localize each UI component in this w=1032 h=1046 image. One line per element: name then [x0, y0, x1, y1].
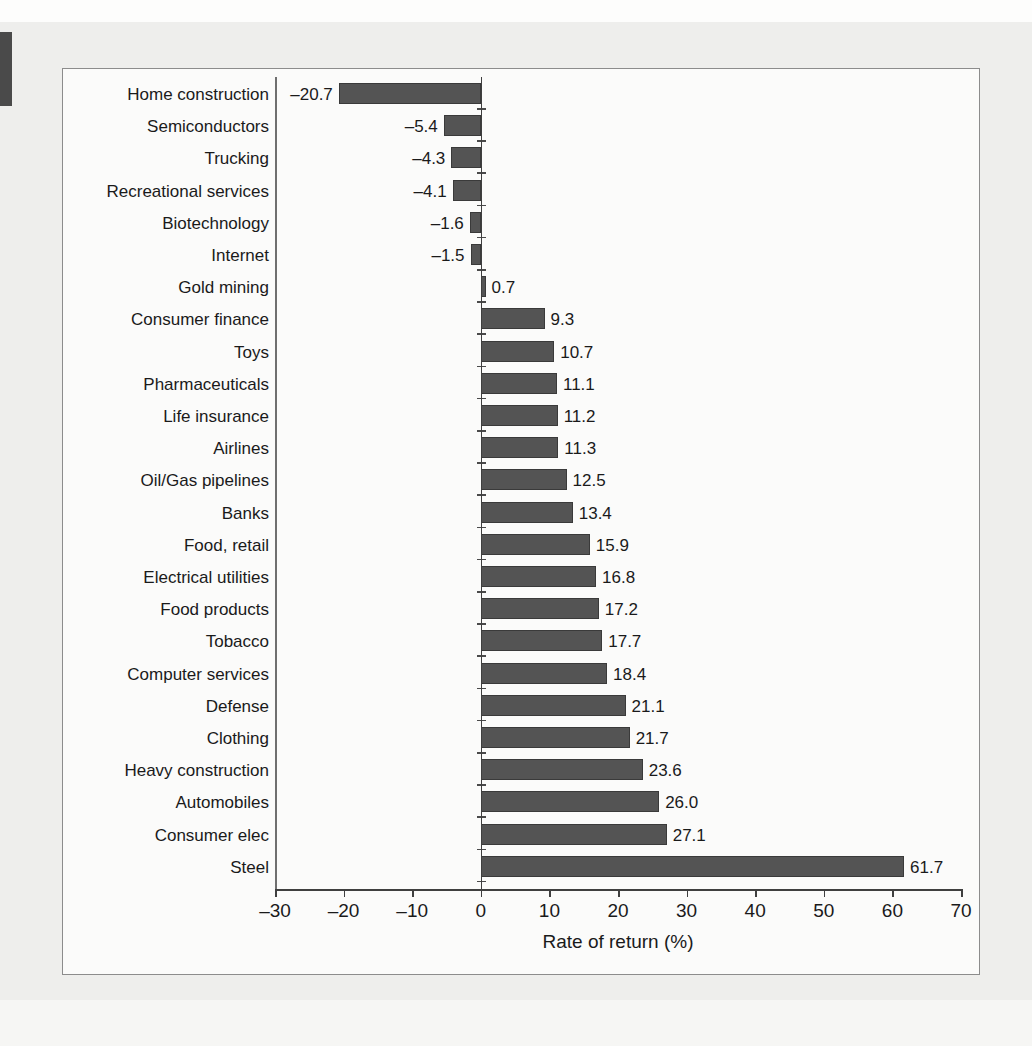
bar — [481, 308, 545, 329]
category-label: Clothing — [63, 730, 269, 747]
x-tick-label: 70 — [931, 901, 991, 920]
bar-value-label: –20.7 — [290, 86, 333, 103]
bar — [481, 791, 659, 812]
bar-value-label: 23.6 — [649, 762, 682, 779]
bar-value-label: 11.2 — [564, 408, 596, 425]
x-tick-label: –20 — [314, 901, 374, 920]
bar-value-label: 21.1 — [632, 698, 665, 715]
bar — [451, 147, 480, 168]
bar-value-label: –4.1 — [414, 183, 447, 200]
bar — [481, 663, 607, 684]
bar-value-label: –4.3 — [412, 150, 445, 167]
x-tick-label: 0 — [451, 901, 511, 920]
category-label: Pharmaceuticals — [63, 376, 269, 393]
category-label: Airlines — [63, 440, 269, 457]
x-tick-label: 50 — [794, 901, 854, 920]
x-tick — [549, 889, 551, 897]
category-label: Heavy construction — [63, 762, 269, 779]
bar — [453, 180, 481, 201]
category-label: Recreational services — [63, 183, 269, 200]
bar — [470, 212, 481, 233]
bar-value-label: 17.7 — [608, 633, 641, 650]
bar-value-label: 11.1 — [563, 376, 595, 393]
category-label: Consumer finance — [63, 311, 269, 328]
category-label: Life insurance — [63, 408, 269, 425]
bar — [481, 727, 630, 748]
x-tick — [892, 889, 894, 897]
bar — [481, 341, 554, 362]
bar — [481, 598, 599, 619]
category-label: Gold mining — [63, 279, 269, 296]
category-label: Food, retail — [63, 537, 269, 554]
x-tick-label: 40 — [725, 901, 785, 920]
bar-value-label: –1.5 — [431, 247, 464, 264]
category-label: Computer services — [63, 666, 269, 683]
bar — [481, 759, 643, 780]
bar-value-label: 13.4 — [579, 505, 612, 522]
category-label: Steel — [63, 859, 269, 876]
bar — [481, 469, 567, 490]
category-label: Semiconductors — [63, 118, 269, 135]
bar-value-label: 61.7 — [910, 859, 943, 876]
x-tick-label: 60 — [862, 901, 922, 920]
category-label: Food products — [63, 601, 269, 618]
category-label: Home construction — [63, 86, 269, 103]
category-label-column: Home constructionSemiconductorsTruckingR… — [63, 69, 269, 889]
figure-frame: Home constructionSemiconductorsTruckingR… — [62, 68, 980, 975]
x-tick — [618, 889, 620, 897]
bar — [481, 437, 559, 458]
bars-area: –20.7–5.4–4.3–4.1–1.6–1.50.79.310.711.11… — [275, 69, 981, 889]
bar-value-label: 9.3 — [551, 311, 575, 328]
bar — [471, 244, 481, 265]
category-label: Electrical utilities — [63, 569, 269, 586]
x-tick-label: 20 — [588, 901, 648, 920]
bar-value-label: 26.0 — [665, 794, 698, 811]
category-label: Biotechnology — [63, 215, 269, 232]
x-tick — [481, 889, 483, 897]
bar — [481, 373, 557, 394]
bar-value-label: 11.3 — [564, 440, 596, 457]
category-label: Banks — [63, 505, 269, 522]
x-tick-label: –10 — [382, 901, 442, 920]
bar-value-label: 15.9 — [596, 537, 629, 554]
bar — [481, 824, 667, 845]
x-tick — [961, 889, 963, 897]
x-tick — [687, 889, 689, 897]
x-tick — [412, 889, 414, 897]
x-tick-label: 30 — [657, 901, 717, 920]
x-tick — [344, 889, 346, 897]
x-tick — [824, 889, 826, 897]
bar-value-label: 21.7 — [636, 730, 669, 747]
category-label: Tobacco — [63, 633, 269, 650]
zero-baseline — [481, 77, 483, 889]
category-label: Toys — [63, 344, 269, 361]
category-label: Automobiles — [63, 794, 269, 811]
page-edge-marker — [0, 32, 12, 106]
bar — [481, 405, 558, 426]
bar-value-label: 27.1 — [673, 827, 706, 844]
bar-chart-plot: Home constructionSemiconductorsTruckingR… — [63, 69, 981, 976]
bar-value-label: 16.8 — [602, 569, 635, 586]
bar-value-label: 12.5 — [573, 472, 606, 489]
x-axis-title: Rate of return (%) — [275, 931, 961, 953]
x-tick — [755, 889, 757, 897]
bar-value-label: –5.4 — [405, 118, 438, 135]
bar-value-label: 18.4 — [613, 666, 646, 683]
bar — [481, 534, 590, 555]
bar — [444, 115, 481, 136]
category-label: Consumer elec — [63, 827, 269, 844]
category-label: Oil/Gas pipelines — [63, 472, 269, 489]
bar-value-label: 10.7 — [560, 344, 593, 361]
bar — [481, 695, 626, 716]
x-tick — [275, 889, 277, 897]
bar-value-label: 0.7 — [492, 279, 516, 296]
bar — [481, 856, 904, 877]
bar — [481, 566, 596, 587]
category-label: Defense — [63, 698, 269, 715]
bar — [339, 83, 481, 104]
bar-value-label: 17.2 — [605, 601, 638, 618]
x-tick-label: 10 — [519, 901, 579, 920]
bar — [481, 502, 573, 523]
x-tick-label: –30 — [245, 901, 305, 920]
bar-value-label: –1.6 — [431, 215, 464, 232]
